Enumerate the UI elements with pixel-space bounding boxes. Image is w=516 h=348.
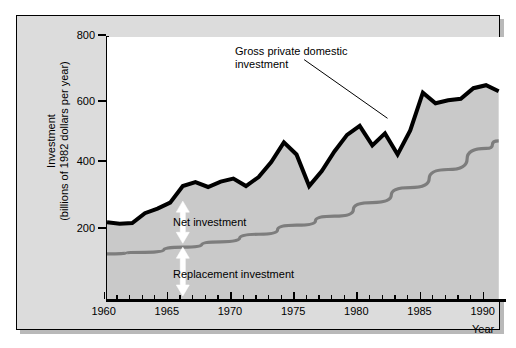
x-tick-minor-1964 bbox=[154, 295, 155, 299]
x-tick-minor-1966 bbox=[179, 295, 180, 299]
x-tick-minor-1984 bbox=[407, 295, 408, 299]
x-tick-minor-1979 bbox=[344, 295, 345, 299]
x-tick-major-1960 bbox=[104, 292, 106, 299]
x-tick-minor-1971 bbox=[243, 295, 244, 299]
chart-figure: 800 600 400 200 Investment (billions of … bbox=[0, 0, 516, 348]
x-tick-minor-1961 bbox=[116, 295, 117, 299]
x-tick-minor-1963 bbox=[142, 295, 143, 299]
x-tick-minor-1974 bbox=[281, 295, 282, 299]
x-tick-label-1970: 1970 bbox=[218, 305, 242, 317]
x-tick-label-1985: 1985 bbox=[407, 305, 431, 317]
x-tick-minor-1989 bbox=[470, 295, 471, 299]
x-tick-minor-1976 bbox=[306, 295, 307, 299]
x-tick-minor-1983 bbox=[394, 295, 395, 299]
x-tick-label-1975: 1975 bbox=[281, 305, 305, 317]
x-tick-minor-1986 bbox=[432, 295, 433, 299]
x-tick-minor-1982 bbox=[382, 295, 383, 299]
figure-frame: 800 600 400 200 Investment (billions of … bbox=[16, 15, 500, 330]
x-tick-label-1960: 1960 bbox=[91, 305, 115, 317]
y-tick-mark-400 bbox=[98, 160, 106, 162]
x-tick-label-1990: 1990 bbox=[470, 305, 494, 317]
y-tick-mark-800 bbox=[98, 34, 106, 36]
x-tick-major-1990 bbox=[483, 292, 485, 299]
chart-canvas bbox=[107, 37, 505, 299]
x-tick-major-1965 bbox=[167, 292, 169, 299]
net-investment-label: Net investment bbox=[173, 216, 246, 228]
x-tick-minor-1968 bbox=[205, 295, 206, 299]
gross-investment-annotation: Gross private domestic investment bbox=[235, 45, 385, 71]
annotation-line2: investment bbox=[235, 58, 288, 70]
y-tick-mark-600 bbox=[98, 100, 106, 102]
x-tick-major-1975 bbox=[293, 292, 295, 299]
x-tick-major-1985 bbox=[420, 292, 422, 299]
y-tick-mark-200 bbox=[98, 227, 106, 229]
x-tick-label-1965: 1965 bbox=[155, 305, 179, 317]
x-tick-minor-1977 bbox=[318, 295, 319, 299]
y-axis-title-line2: (billions of 1982 dollars per year) bbox=[58, 61, 70, 221]
annotation-line1: Gross private domestic bbox=[235, 45, 347, 57]
x-tick-major-1970 bbox=[230, 292, 232, 299]
x-tick-minor-1972 bbox=[255, 295, 256, 299]
x-tick-minor-1978 bbox=[331, 295, 332, 299]
replacement-investment-label: Replacement investment bbox=[173, 268, 294, 280]
plot-area bbox=[107, 37, 505, 299]
x-tick-minor-1967 bbox=[192, 295, 193, 299]
net-investment-area bbox=[107, 85, 499, 299]
x-tick-minor-1987 bbox=[445, 295, 446, 299]
x-tick-minor-1969 bbox=[217, 295, 218, 299]
x-axis-line bbox=[106, 299, 506, 302]
x-tick-major-1980 bbox=[356, 292, 358, 299]
y-axis-title-line1: Investment bbox=[45, 114, 57, 168]
x-tick-label-1980: 1980 bbox=[344, 305, 368, 317]
x-tick-minor-1981 bbox=[369, 295, 370, 299]
x-axis-title: Year bbox=[472, 323, 494, 335]
x-tick-minor-1973 bbox=[268, 295, 269, 299]
x-tick-minor-1988 bbox=[457, 295, 458, 299]
y-axis-title: Investment (billions of 1982 dollars per… bbox=[45, 36, 71, 246]
x-tick-minor-1962 bbox=[129, 295, 130, 299]
